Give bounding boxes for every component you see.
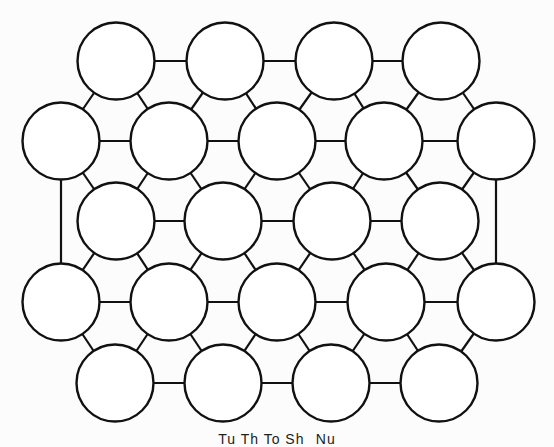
circle-node-r3-c1: [78, 183, 155, 260]
circle-node-r2-c5: [458, 103, 535, 180]
circle-node-r4-c4: [348, 264, 425, 341]
circle-node-r5-c1: [77, 345, 154, 422]
circle-node-r1-c1: [78, 23, 155, 100]
circle-node-r5-c4: [401, 345, 478, 422]
circle-node-r1-c2: [187, 23, 264, 100]
circle-node-r5-c2: [185, 345, 262, 422]
circle-node-r2-c3: [239, 103, 316, 180]
circle-node-r3-c4: [402, 183, 479, 260]
circle-node-r3-c2: [185, 183, 262, 260]
circle-node-r4-c1: [23, 264, 100, 341]
circle-node-r3-c3: [294, 183, 371, 260]
circle-node-r2-c1: [23, 103, 100, 180]
circle-node-r1-c4: [403, 23, 480, 100]
circle-node-r4-c5: [458, 264, 535, 341]
circle-node-r1-c3: [296, 23, 373, 100]
figure-caption: Tu Th To Sh Nu: [0, 431, 554, 447]
circle-node-r4-c3: [239, 264, 316, 341]
circle-node-r2-c4: [346, 103, 423, 180]
circle-node-r4-c2: [131, 264, 208, 341]
circle-node-r2-c2: [131, 103, 208, 180]
circle-node-r5-c3: [293, 345, 370, 422]
